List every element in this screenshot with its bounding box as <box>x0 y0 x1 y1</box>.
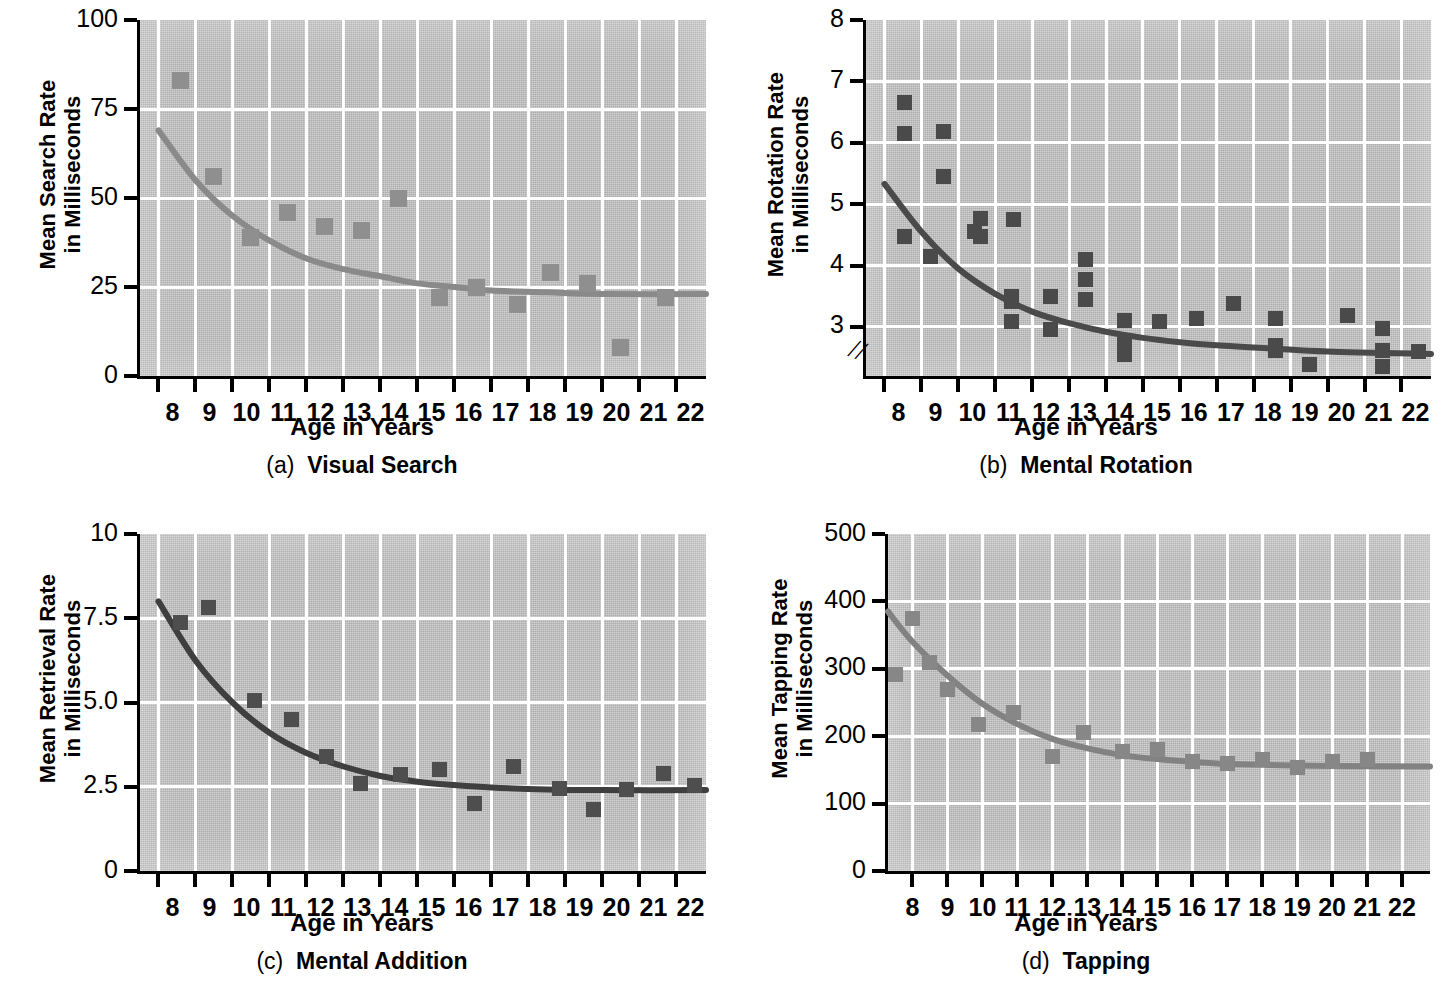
data-point-marker <box>1185 754 1200 769</box>
data-point-marker <box>1411 344 1426 359</box>
data-point-marker <box>431 289 448 306</box>
y-axis-tick-label: 100 <box>824 789 866 814</box>
y-axis-tick-label: 500 <box>824 520 866 545</box>
data-point-marker <box>922 655 937 670</box>
data-point-marker <box>319 749 334 764</box>
x-axis-tick <box>1400 874 1404 887</box>
panel-d-y-axis-title: Mean Tapping Rate in Milliseconds <box>768 554 817 804</box>
data-point-marker <box>1076 725 1091 740</box>
y-axis-tick-label: 2.5 <box>83 772 118 797</box>
data-point-marker <box>201 600 216 615</box>
data-point-marker <box>936 124 951 139</box>
y-axis-tick <box>124 869 137 873</box>
x-axis-tick <box>452 874 456 887</box>
data-point-marker <box>247 693 262 708</box>
data-point-marker <box>936 169 951 184</box>
y-axis-tick <box>124 374 137 378</box>
x-axis-tick <box>1190 874 1194 887</box>
x-axis-tick <box>1363 379 1367 392</box>
panel-c-caption-text: Mental Addition <box>296 948 468 974</box>
panel-a-caption-text: Visual Search <box>307 452 457 478</box>
x-axis-tick <box>230 379 234 392</box>
y-axis-tick <box>872 802 885 806</box>
data-point-marker <box>284 712 299 727</box>
data-point-marker <box>897 126 912 141</box>
x-axis-tick <box>1252 379 1256 392</box>
x-axis-tick <box>230 874 234 887</box>
y-axis-tick <box>850 325 863 329</box>
y-axis-tick <box>124 285 137 289</box>
data-point-marker <box>432 762 447 777</box>
y-axis-tick <box>124 196 137 200</box>
y-axis-tick-label: 8 <box>830 6 844 31</box>
x-axis-tick <box>1120 874 1124 887</box>
panel-d-caption-text: Tapping <box>1063 948 1151 974</box>
data-point-marker <box>1150 742 1165 757</box>
data-point-marker <box>612 339 629 356</box>
y-axis-tick-label: 7.5 <box>83 604 118 629</box>
x-axis-tick <box>156 874 160 887</box>
y-axis-tick <box>850 264 863 268</box>
x-axis-tick <box>563 874 567 887</box>
x-axis-tick <box>1178 379 1182 392</box>
data-point-marker <box>905 611 920 626</box>
data-point-marker <box>1340 308 1355 323</box>
panel-a-y-axis-title: Mean Search Rate in Milliseconds <box>36 50 85 300</box>
x-axis-tick <box>1260 874 1264 887</box>
panel-c-caption: (c) Mental Addition <box>0 948 724 975</box>
x-axis-tick <box>526 379 530 392</box>
data-point-marker <box>971 717 986 732</box>
data-point-marker <box>1226 296 1241 311</box>
x-axis-tick <box>267 874 271 887</box>
data-point-marker <box>897 95 912 110</box>
panel-c-x-axis-title: Age in Years <box>0 909 724 937</box>
x-axis-tick <box>1030 379 1034 392</box>
figure-sheet: Mean Search Rate in Milliseconds 0255075… <box>0 0 1448 1008</box>
y-axis-tick-label: 100 <box>76 6 118 31</box>
data-point-marker <box>973 229 988 244</box>
x-axis-tick <box>378 379 382 392</box>
x-axis-tick <box>304 874 308 887</box>
y-axis-tick <box>850 202 863 206</box>
panel-b-caption: (b) Mental Rotation <box>724 452 1448 479</box>
data-point-marker <box>1006 212 1021 227</box>
y-axis-tick <box>850 18 863 22</box>
panel-b-caption-text: Mental Rotation <box>1020 452 1193 478</box>
data-point-marker <box>1375 359 1390 374</box>
data-point-marker <box>506 759 521 774</box>
data-point-marker <box>657 289 674 306</box>
data-point-marker <box>172 72 189 89</box>
data-point-marker <box>390 190 407 207</box>
x-axis-tick <box>910 874 914 887</box>
x-axis-tick <box>1141 379 1145 392</box>
data-point-marker <box>579 275 596 292</box>
y-axis-tick <box>872 667 885 671</box>
y-axis-tick-label: 300 <box>824 654 866 679</box>
x-axis-tick <box>882 379 886 392</box>
x-axis-tick <box>637 379 641 392</box>
data-point-marker <box>888 667 903 682</box>
y-axis-tick <box>872 734 885 738</box>
panel-c-plot-area: 02.55.07.5108910111213141516171819202122 <box>140 534 706 871</box>
data-point-marker <box>1152 314 1167 329</box>
panel-b-caption-label: (b) <box>979 452 1007 478</box>
x-axis-tick <box>378 874 382 887</box>
y-axis-tick-label: 10 <box>90 520 118 545</box>
y-axis-tick <box>850 141 863 145</box>
panel-a-x-axis-line <box>137 376 706 379</box>
data-point-marker <box>509 296 526 313</box>
y-axis-tick-label: 4 <box>830 251 844 276</box>
x-axis-tick <box>956 379 960 392</box>
y-axis-tick-label: 3 <box>830 312 844 337</box>
data-point-marker <box>1004 314 1019 329</box>
data-point-marker <box>1004 294 1019 309</box>
panel-visual-search: Mean Search Rate in Milliseconds 0255075… <box>0 0 724 504</box>
x-axis-tick <box>563 379 567 392</box>
x-axis-tick <box>452 379 456 392</box>
data-point-marker <box>1302 357 1317 372</box>
x-axis-tick <box>489 874 493 887</box>
data-point-marker <box>1255 752 1270 767</box>
y-axis-tick <box>872 532 885 536</box>
y-axis-tick <box>124 18 137 22</box>
data-point-marker <box>1043 322 1058 337</box>
